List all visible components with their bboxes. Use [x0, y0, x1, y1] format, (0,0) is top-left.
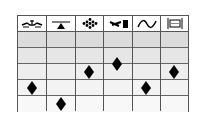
sine-wave-icon — [133, 16, 161, 31]
dot-cluster-icon — [75, 16, 104, 31]
meandering-channel-icon — [18, 16, 46, 31]
diamond-grid — [17, 15, 189, 112]
column-divider — [132, 16, 133, 111]
balance-triangle-icon — [47, 16, 75, 31]
arrow-block-icon — [104, 16, 133, 31]
bracket-frame-icon — [161, 16, 189, 31]
column-divider — [103, 16, 104, 111]
column-divider — [160, 16, 161, 111]
column-divider — [46, 16, 47, 111]
column-divider — [75, 16, 76, 111]
